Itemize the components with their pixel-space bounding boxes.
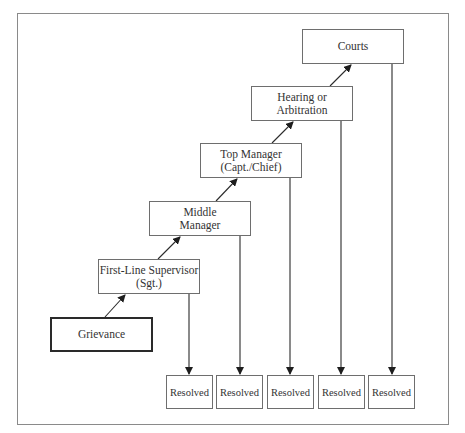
arrow-hearing-to-courts [330, 65, 351, 86]
resolved-label: Resolved [271, 387, 310, 398]
arrow-top-to-hearing [272, 122, 293, 143]
arrow-supervisor-to-middle [158, 237, 180, 259]
node-courts: Courts [302, 29, 404, 64]
node-grievance: Grievance [50, 317, 153, 352]
resolved-label: Resolved [170, 387, 209, 398]
resolved-box-1: Resolved [166, 375, 213, 409]
node-label-line2: Manager [180, 219, 221, 232]
resolved-box-4: Resolved [318, 375, 365, 409]
node-label: Grievance [78, 328, 125, 341]
node-label-line2: Arbitration [276, 104, 327, 117]
node-first-line-supervisor: First-Line Supervisor (Sgt.) [98, 259, 200, 294]
node-label-line2: (Sgt.) [136, 277, 162, 290]
arrow-grievance-to-supervisor [105, 295, 125, 317]
resolved-box-5: Resolved [368, 375, 415, 409]
node-label-line1: Hearing or [277, 91, 327, 104]
resolved-label: Resolved [322, 387, 361, 398]
node-hearing-arbitration: Hearing or Arbitration [251, 86, 353, 121]
node-label-line1: Middle [183, 206, 216, 219]
arrow-middle-to-top [216, 179, 237, 201]
resolved-box-2: Resolved [216, 375, 263, 409]
node-label-line1: Top Manager [220, 148, 281, 161]
resolved-label: Resolved [220, 387, 259, 398]
node-label-line1: First-Line Supervisor [100, 264, 199, 277]
node-label-line2: (Capt./Chief) [221, 161, 282, 174]
node-middle-manager: Middle Manager [149, 201, 251, 236]
node-top-manager: Top Manager (Capt./Chief) [200, 143, 302, 178]
node-label: Courts [338, 40, 369, 53]
resolved-label: Resolved [372, 387, 411, 398]
resolved-box-3: Resolved [267, 375, 314, 409]
